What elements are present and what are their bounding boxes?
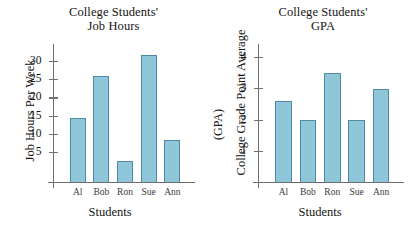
bar-al[interactable] (275, 101, 292, 182)
y-tick-label-5: 5 (36, 146, 42, 158)
x-tick-label-ann: Ann (155, 187, 189, 197)
y-axis-title-gpa: College Grade Point Average (235, 19, 248, 187)
y-tick-label-4: 4 (241, 51, 247, 63)
y-tick-label-1: 1 (241, 145, 247, 157)
y-tick-label-3: 3 (241, 82, 247, 94)
bar-slot-ann: Ann (373, 44, 390, 182)
plot-area-job-hours: 5 10 15 20 25 30 Al Bob Ron (53, 44, 181, 183)
bar-slot-bob: Bob (93, 44, 109, 182)
y-tick-label-30: 30 (30, 55, 42, 67)
bar-ann[interactable] (373, 89, 390, 182)
plot-area-gpa: 1 2 3 4 Al Bob Ron (258, 44, 390, 183)
bar-slot-bob: Bob (300, 44, 317, 182)
x-axis-title-gpa: Students (247, 206, 393, 219)
chart-title-line-1: College Students' (22, 6, 205, 20)
x-axis-title-job-hours: Students (40, 206, 180, 219)
chart-job-hours: College Students' Job Hours Job Hours Pe… (0, 0, 205, 237)
x-axis-line (48, 182, 195, 183)
bar-slot-sue: Sue (348, 44, 365, 182)
bar-ann[interactable] (164, 140, 180, 183)
bar-ron[interactable] (324, 73, 341, 182)
bar-slot-ron: Ron (324, 44, 341, 182)
chart-title-job-hours: College Students' Job Hours (0, 6, 205, 33)
figure-container: College Students' Job Hours Job Hours Pe… (0, 0, 415, 237)
chart-title-line-1: College Students' (231, 6, 415, 20)
bar-slot-al: Al (275, 44, 292, 182)
y-tick-label-25: 25 (30, 73, 42, 85)
chart-gpa: College Students' GPA College Grade Poin… (205, 0, 415, 237)
bar-slot-sue: Sue (141, 44, 157, 182)
bar-group-gpa: Al Bob Ron Sue Ann (258, 44, 390, 182)
bar-bob[interactable] (93, 76, 109, 182)
y-tick-label-20: 20 (30, 92, 42, 104)
chart-title-line-2: Job Hours (22, 20, 205, 34)
x-tick-label-ann: Ann (364, 187, 399, 197)
y-tick-label-10: 10 (30, 128, 42, 140)
bar-slot-ann: Ann (164, 44, 180, 182)
bar-group-job-hours: Al Bob Ron Sue Ann (53, 44, 181, 182)
bar-sue[interactable] (141, 55, 157, 182)
bar-slot-ron: Ron (117, 44, 133, 182)
chart-title-line-2: GPA (231, 20, 415, 34)
y-tick-label-2: 2 (241, 114, 247, 126)
bar-al[interactable] (70, 118, 86, 182)
bar-bob[interactable] (300, 120, 317, 182)
bar-ron[interactable] (117, 161, 133, 182)
x-axis-line (253, 182, 404, 183)
y-tick-label-15: 15 (30, 110, 42, 122)
y-axis-subtitle-gpa: (GPA) (212, 80, 225, 170)
bar-sue[interactable] (348, 120, 365, 182)
bar-slot-al: Al (70, 44, 86, 182)
